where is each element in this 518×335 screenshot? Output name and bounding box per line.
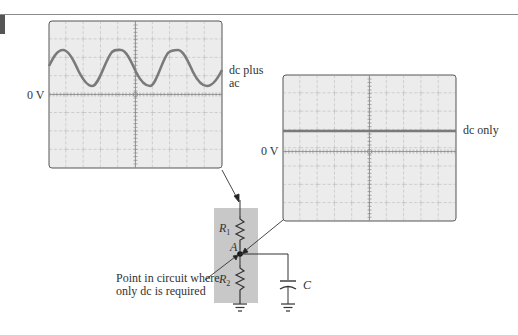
annotation: Point in circuit where only dc is requir… [116,272,220,298]
capacitor-label: C [303,279,311,292]
r2-label: R2 [219,273,230,290]
ground-icon [233,304,247,311]
trace-label-dc-only: dc only [463,124,499,137]
scope-dc-plus-ac [49,21,222,168]
zero-volt-label-left: 0 V [27,89,44,102]
trace-label-line2: ac [229,77,263,90]
annotation-line2: only dc is required [116,285,220,298]
scope-dc-only [283,75,456,221]
trace-label-dc-plus-ac: dc plus ac [229,64,263,90]
node-a-label: A [230,241,237,254]
ground-icon [281,304,295,311]
r1-label: R1 [219,222,230,239]
diagram-canvas [0,0,518,335]
zero-volt-label-right: 0 V [261,145,278,158]
